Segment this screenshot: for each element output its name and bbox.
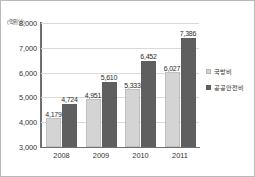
bar-value-label: 5,333 bbox=[124, 82, 141, 89]
bar[interactable]: 5,333 bbox=[125, 89, 140, 147]
legend-item[interactable]: 국방비 bbox=[206, 67, 244, 76]
legend-label: 공공안전비 bbox=[214, 83, 244, 92]
legend-swatch-icon bbox=[206, 69, 211, 74]
y-axis-tick-label: 5,000 bbox=[19, 93, 37, 102]
chart-legend: 국방비공공안전비 bbox=[206, 67, 244, 92]
plot-area: 3,0004,0005,0006,0007,0008,0004,1794,724… bbox=[41, 23, 199, 147]
y-axis-tick-label: 3,000 bbox=[19, 143, 37, 152]
bar[interactable]: 5,610 bbox=[102, 82, 117, 147]
bar-group: 4,9515,6102009 bbox=[86, 23, 117, 147]
bar[interactable]: 4,951 bbox=[86, 99, 101, 147]
bar-value-label: 4,724 bbox=[61, 96, 78, 103]
bar[interactable]: 4,179 bbox=[46, 118, 61, 147]
x-axis-tick-label: 2008 bbox=[53, 151, 69, 160]
gridline bbox=[41, 147, 199, 148]
bar-group: 5,3336,4522010 bbox=[125, 23, 156, 147]
y-axis-tick-label: 8,000 bbox=[19, 19, 37, 28]
bar-value-label: 4,951 bbox=[85, 92, 102, 99]
legend-swatch-icon bbox=[206, 85, 211, 90]
x-axis-tick-label: 2011 bbox=[172, 151, 188, 160]
bar-value-label: 4,179 bbox=[45, 111, 62, 118]
bar-value-label: 6,452 bbox=[140, 53, 157, 60]
y-axis-tick-label: 4,000 bbox=[19, 118, 37, 127]
bar-value-label: 6,027 bbox=[164, 65, 181, 72]
bar-value-label: 7,386 bbox=[180, 30, 197, 37]
chart-figure: (억위안) 3,0004,0005,0006,0007,0008,0004,17… bbox=[0, 0, 255, 177]
bar[interactable]: 4,724 bbox=[62, 104, 77, 147]
bar[interactable]: 6,452 bbox=[141, 61, 156, 147]
legend-label: 국방비 bbox=[214, 67, 232, 76]
x-axis-tick-label: 2009 bbox=[93, 151, 109, 160]
bar[interactable]: 7,386 bbox=[181, 38, 196, 147]
bar-value-label: 5,610 bbox=[101, 74, 118, 81]
y-axis-tick-label: 7,000 bbox=[19, 43, 37, 52]
bar-group: 6,0277,3862011 bbox=[165, 23, 196, 147]
bar[interactable]: 6,027 bbox=[165, 72, 180, 147]
bar-group: 4,1794,7242008 bbox=[46, 23, 77, 147]
y-axis-tick-label: 6,000 bbox=[19, 68, 37, 77]
x-axis-tick-label: 2010 bbox=[132, 151, 148, 160]
legend-item[interactable]: 공공안전비 bbox=[206, 83, 244, 92]
